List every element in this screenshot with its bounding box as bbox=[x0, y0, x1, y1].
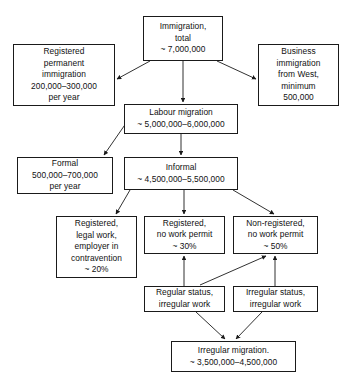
node-text-line: Non-registered, bbox=[236, 218, 315, 230]
node-text-line: employer in bbox=[59, 241, 134, 253]
node-text-line: total bbox=[146, 33, 220, 45]
node-text-line: from West, bbox=[261, 69, 336, 81]
registered-no-work-permit-box: Registered,no work permit~ 30% bbox=[144, 216, 225, 254]
edge-regular-status-to-non-registered bbox=[200, 256, 266, 285]
node-text-line: per year bbox=[20, 181, 110, 193]
node-text-line: Registered, bbox=[147, 218, 222, 230]
node-text-line: immigration bbox=[261, 58, 336, 70]
node-text-line: Irregular status, bbox=[236, 287, 315, 299]
node-text-line: irregular work bbox=[147, 299, 222, 311]
node-text-line: 500,000–700,000 bbox=[20, 170, 110, 182]
node-text-line: Registered bbox=[16, 46, 112, 58]
node-text-line: per year bbox=[16, 92, 112, 104]
edge-informal-to-registered-legal-work bbox=[116, 190, 130, 214]
node-text-line: legal work, bbox=[59, 230, 134, 242]
business-immigration-box: Businessimmigrationfrom West,minimum500,… bbox=[258, 44, 339, 106]
regular-status-irregular-work-box: Regular status,irregular work bbox=[144, 286, 225, 312]
node-text-line: ~ 20% bbox=[59, 264, 134, 276]
formal-box: Formal500,000–700,000per year bbox=[17, 157, 113, 194]
node-text-line: Regular status, bbox=[147, 287, 222, 299]
irregular-migration-box: Irregular migration.~ 3,500,000–4,500,00… bbox=[171, 341, 296, 372]
informal-box: Informal~ 4,500,000–5,500,000 bbox=[124, 157, 238, 190]
node-text-line: 200,000–300,000 bbox=[16, 81, 112, 93]
node-text-line: Labour migration bbox=[127, 107, 235, 119]
node-text-line: Business bbox=[261, 46, 336, 58]
node-text-line: Registered, bbox=[59, 218, 134, 230]
node-text-line: ~ 5,000,000–6,000,000 bbox=[127, 119, 235, 131]
edge-informal-to-non-registered bbox=[233, 190, 274, 214]
node-text-line: irregular work bbox=[236, 299, 315, 311]
labour-migration-box: Labour migration~ 5,000,000–6,000,000 bbox=[124, 104, 238, 134]
node-text-line: immigration bbox=[16, 69, 112, 81]
node-text-line: no work permit bbox=[236, 229, 315, 241]
node-text-line: ~ 4,500,000–5,500,000 bbox=[127, 174, 235, 186]
irregular-status-irregular-work-box: Irregular status,irregular work bbox=[233, 286, 318, 312]
edge-immigration-to-registered-permanent bbox=[117, 61, 150, 79]
node-text-line: contravention bbox=[59, 253, 134, 265]
node-text-line: ~ 7,000,000 bbox=[146, 44, 220, 56]
node-text-line: ~ 30% bbox=[147, 241, 222, 253]
node-text-line: Immigration, bbox=[146, 21, 220, 33]
node-text-line: ~ 3,500,000–4,500,000 bbox=[174, 357, 293, 369]
edge-regular-status-to-irregular-migration bbox=[196, 312, 225, 339]
node-text-line: Irregular migration. bbox=[174, 345, 293, 357]
edge-irregular-status-to-irregular-migration bbox=[236, 312, 262, 339]
registered-permanent-immigration-box: Registeredpermanentimmigration200,000–30… bbox=[13, 44, 115, 106]
node-text-line: ~ 50% bbox=[236, 241, 315, 253]
node-text-line: 500,000 bbox=[261, 92, 336, 104]
node-text-line: permanent bbox=[16, 58, 112, 70]
node-text-line: minimum bbox=[261, 81, 336, 93]
immigration-flow-diagram: Immigration,total~ 7,000,000Registeredpe… bbox=[0, 0, 350, 374]
node-text-line: no work permit bbox=[147, 229, 222, 241]
immigration-total-box: Immigration,total~ 7,000,000 bbox=[143, 16, 223, 61]
edge-immigration-to-business bbox=[217, 61, 256, 79]
registered-legal-work-box: Registered,legal work,employer incontrav… bbox=[56, 216, 137, 278]
node-text-line: Formal bbox=[20, 158, 110, 170]
non-registered-no-work-permit-box: Non-registered,no work permit~ 50% bbox=[233, 216, 318, 254]
node-text-line: Informal bbox=[127, 162, 235, 174]
